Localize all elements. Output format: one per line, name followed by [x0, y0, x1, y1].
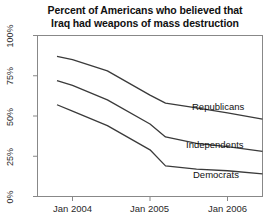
x-tick-label-jan-2005: Jan 2005 — [119, 203, 180, 214]
y-axis-ticks — [33, 36, 38, 197]
plot-area — [0, 0, 280, 224]
series-label-independents: Independents — [186, 139, 244, 150]
x-axis-ticks — [73, 197, 228, 202]
series-label-democrats: Democrats — [193, 169, 239, 180]
y-tick-label-100: 100% — [5, 17, 15, 55]
y-tick-label-50: 50% — [5, 98, 15, 136]
y-tick-label-0: 0% — [5, 178, 15, 216]
x-tick-label-jan-2004: Jan 2004 — [42, 203, 103, 214]
y-tick-label-25: 25% — [5, 138, 15, 176]
x-tick-label-jan-2006: Jan 2006 — [197, 203, 258, 214]
y-tick-label-75: 75% — [5, 57, 15, 95]
data-series-group — [57, 56, 263, 174]
chart-container: Percent of Americans who believed that I… — [0, 0, 280, 224]
series-label-republicans: Republicans — [192, 101, 244, 112]
